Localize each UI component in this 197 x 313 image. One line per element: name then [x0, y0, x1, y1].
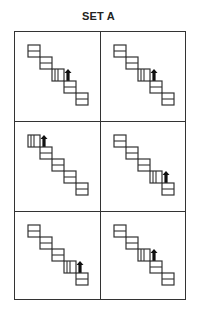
horizontal-split-step [126, 57, 138, 69]
staircase-panel-4 [101, 122, 186, 211]
staircase-panel-1 [15, 32, 100, 121]
up-arrow-icon [41, 135, 48, 147]
vertical-split-step [52, 69, 64, 81]
horizontal-split-step [76, 93, 88, 105]
horizontal-split-step [126, 237, 138, 249]
up-arrow-icon [65, 69, 72, 81]
up-arrow-icon [163, 171, 170, 183]
horizontal-split-step [76, 183, 88, 195]
staircase-panel-3 [15, 122, 100, 211]
horizontal-split-step [114, 135, 126, 147]
horizontal-split-step [28, 45, 40, 57]
horizontal-split-step [28, 225, 40, 237]
horizontal-split-step [64, 171, 76, 183]
horizontal-split-step [126, 147, 138, 159]
vertical-split-step [138, 249, 150, 261]
horizontal-split-step [52, 159, 64, 171]
up-arrow-icon [151, 69, 158, 81]
vertical-split-step [150, 171, 162, 183]
horizontal-split-step [114, 45, 126, 57]
horizontal-split-step [162, 93, 174, 105]
horizontal-split-step [52, 249, 64, 261]
vertical-split-step [28, 135, 40, 147]
panel-grid [14, 31, 186, 300]
horizontal-split-step [40, 147, 52, 159]
staircase-panel-6 [101, 212, 186, 301]
horizontal-split-step [150, 261, 162, 273]
horizontal-split-step [40, 57, 52, 69]
vertical-split-step [64, 261, 76, 273]
horizontal-split-step [138, 159, 150, 171]
staircase-panel-5 [15, 212, 100, 301]
staircase-panel-2 [101, 32, 186, 121]
up-arrow-icon [151, 249, 158, 261]
horizontal-split-step [150, 81, 162, 93]
up-arrow-icon [77, 261, 84, 273]
horizontal-split-step [76, 273, 88, 285]
horizontal-split-step [114, 225, 126, 237]
horizontal-split-step [162, 273, 174, 285]
set-title: SET A [0, 10, 197, 22]
horizontal-split-step [162, 183, 174, 195]
horizontal-split-step [64, 81, 76, 93]
vertical-split-step [138, 69, 150, 81]
horizontal-split-step [40, 237, 52, 249]
